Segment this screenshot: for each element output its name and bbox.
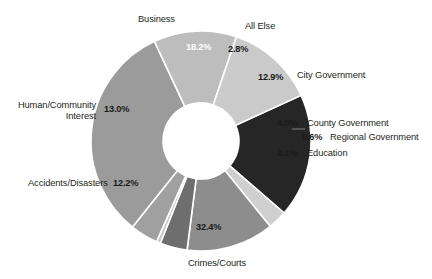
donut-chart-figure: Business All Else City Government County… (0, 0, 432, 279)
slice-value-all-else: 2.8% (228, 44, 248, 54)
slice-label-business: Business (138, 14, 175, 25)
slice-value-city-government: 12.9% (258, 72, 283, 82)
slice-value-county-government: 4.0% (277, 118, 297, 128)
donut-slice-group (91, 31, 311, 251)
slice-label-county-government: County Government (307, 118, 389, 129)
slice-label-accidents-disasters: Accidents/Disasters (28, 178, 108, 189)
slice-value-education: 4.1% (277, 148, 297, 158)
slice-value-crimes-courts: 32.4% (196, 222, 221, 232)
slice-value-business: 18.2% (186, 42, 211, 52)
slice-value-accidents-disasters: 12.2% (113, 178, 138, 188)
slice-value-regional-government: 0.6% (302, 132, 322, 142)
slice-label-all-else: All Else (245, 21, 275, 32)
slice-label-education: Education (307, 148, 347, 159)
slice-label-regional-government: Regional Government (330, 132, 419, 143)
slice-value-human-community-interest: 13.0% (104, 104, 129, 114)
slice-label-human-community-interest: Human/Community Interest (8, 100, 96, 123)
slice-label-crimes-courts: Crimes/Courts (188, 258, 246, 269)
slice-label-city-government: City Government (297, 70, 365, 81)
